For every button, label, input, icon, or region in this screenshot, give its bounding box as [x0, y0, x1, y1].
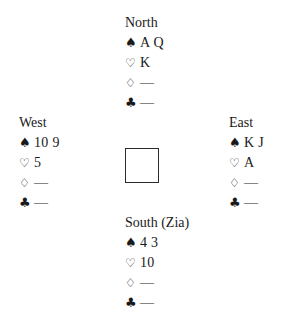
club-icon: ♣	[125, 293, 140, 313]
east-clubs: ♣ —	[229, 193, 264, 213]
east-spades-cards: K J	[244, 133, 264, 153]
east-clubs-cards: —	[244, 193, 258, 213]
west-clubs-cards: —	[34, 193, 48, 213]
diamond-icon: ♢	[19, 173, 34, 193]
spade-icon: ♠	[229, 133, 244, 153]
west-hand: West ♠ 10 9 ♡ 5 ♢ — ♣ —	[19, 113, 60, 213]
heart-icon: ♡	[125, 53, 140, 73]
south-label: South (Zia)	[125, 213, 189, 233]
north-spades: ♠ A Q	[125, 33, 164, 53]
east-hand: East ♠ K J ♡ A ♢ — ♣ —	[229, 113, 264, 213]
north-hand: North ♠ A Q ♡ K ♢ — ♣ —	[125, 13, 164, 113]
north-clubs: ♣ —	[125, 93, 164, 113]
diamond-icon: ♢	[125, 73, 140, 93]
south-spades: ♠ 4 3	[125, 233, 189, 253]
heart-icon: ♡	[229, 153, 244, 173]
spade-icon: ♠	[125, 33, 140, 53]
east-hearts: ♡ A	[229, 153, 264, 173]
south-diamonds: ♢ —	[125, 273, 189, 293]
north-hearts-cards: K	[140, 53, 150, 73]
spade-icon: ♠	[19, 133, 34, 153]
west-spades-cards: 10 9	[34, 133, 60, 153]
club-icon: ♣	[125, 93, 140, 113]
east-diamonds-cards: —	[244, 173, 258, 193]
heart-icon: ♡	[125, 253, 140, 273]
south-spades-cards: 4 3	[140, 233, 158, 253]
south-hearts: ♡ 10	[125, 253, 189, 273]
east-spades: ♠ K J	[229, 133, 264, 153]
table-square	[125, 148, 159, 183]
south-hand: South (Zia) ♠ 4 3 ♡ 10 ♢ — ♣ —	[125, 213, 189, 313]
east-label: East	[229, 113, 264, 133]
north-spades-cards: A Q	[140, 33, 164, 53]
spade-icon: ♠	[125, 233, 140, 253]
west-hearts: ♡ 5	[19, 153, 60, 173]
north-hearts: ♡ K	[125, 53, 164, 73]
north-diamonds-cards: —	[140, 73, 154, 93]
south-diamonds-cards: —	[140, 273, 154, 293]
south-clubs-cards: —	[140, 293, 154, 313]
north-clubs-cards: —	[140, 93, 154, 113]
club-icon: ♣	[229, 193, 244, 213]
west-spades: ♠ 10 9	[19, 133, 60, 153]
south-hearts-cards: 10	[140, 253, 155, 273]
south-clubs: ♣ —	[125, 293, 189, 313]
west-hearts-cards: 5	[34, 153, 41, 173]
diamond-icon: ♢	[229, 173, 244, 193]
heart-icon: ♡	[19, 153, 34, 173]
club-icon: ♣	[19, 193, 34, 213]
west-diamonds: ♢ —	[19, 173, 60, 193]
west-label: West	[19, 113, 60, 133]
east-hearts-cards: A	[244, 153, 254, 173]
west-clubs: ♣ —	[19, 193, 60, 213]
north-diamonds: ♢ —	[125, 73, 164, 93]
north-label: North	[125, 13, 164, 33]
diamond-icon: ♢	[125, 273, 140, 293]
east-diamonds: ♢ —	[229, 173, 264, 193]
west-diamonds-cards: —	[34, 173, 48, 193]
